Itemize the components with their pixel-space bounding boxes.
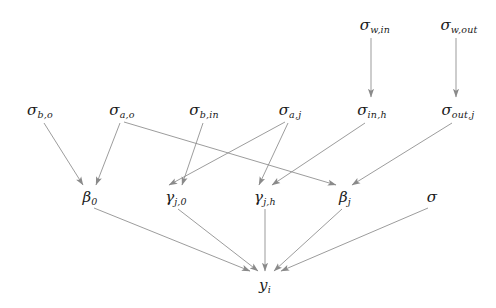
edge-gamma_j_0-to-y_i <box>178 209 258 271</box>
node-subscript: w,in <box>370 24 390 35</box>
edge-sigma_b_in-to-gamma_j_0 <box>182 123 203 185</box>
edge-sigma_a_o-to-beta_j <box>124 122 336 185</box>
node-symbol: σ <box>440 16 450 34</box>
node-symbol: σ <box>357 101 367 119</box>
node-beta_j: βj <box>339 190 351 205</box>
edge-sigma_b_o-to-beta_0 <box>44 123 83 185</box>
node-subscript: a,j <box>289 109 301 120</box>
node-subscript: i <box>268 284 271 295</box>
node-subscript: b,o <box>37 109 52 120</box>
node-symbol: σ <box>427 188 437 206</box>
node-subscript: out,j <box>452 109 475 120</box>
node-sigma_in_h: σin,h <box>357 103 386 118</box>
node-y_i: yi <box>259 278 271 293</box>
node-gamma_j_h: γj,h <box>254 190 276 205</box>
node-sigma_a_o: σa,o <box>109 103 134 118</box>
node-sigma_out_j: σout,j <box>442 103 475 118</box>
node-subscript: j <box>348 196 351 207</box>
edge-beta_0-to-y_i <box>94 208 250 271</box>
edge-sigma_a_j-to-gamma_j_h <box>259 123 288 185</box>
node-subscript: w,out <box>451 24 478 35</box>
edge-sigma_in_h-to-gamma_j_h <box>272 123 365 185</box>
edge-sigma_a_j-to-gamma_j_0 <box>169 122 285 185</box>
node-gamma_j_0: γj,0 <box>165 190 187 205</box>
edges-group <box>44 38 456 271</box>
node-sigma: σ <box>427 190 437 205</box>
edge-layer <box>0 0 496 308</box>
node-subscript: in,h <box>368 109 387 120</box>
node-symbol: σ <box>442 101 452 119</box>
node-subscript: j,h <box>263 196 276 207</box>
node-symbol: σ <box>360 16 370 34</box>
node-subscript: a,o <box>120 109 135 120</box>
node-symbol: β <box>82 188 91 206</box>
node-sigma_a_j: σa,j <box>279 103 302 118</box>
edge-sigma_a_o-to-beta_0 <box>96 123 120 185</box>
node-symbol: β <box>339 188 348 206</box>
node-symbol: γ <box>165 188 174 206</box>
node-beta_0: β0 <box>82 190 97 205</box>
node-subscript: b,in <box>200 109 219 120</box>
node-sigma_w_out: σw,out <box>440 18 477 33</box>
node-symbol: y <box>259 276 268 294</box>
edge-beta_j-to-y_i <box>274 209 342 271</box>
node-symbol: σ <box>279 101 289 119</box>
node-symbol: σ <box>27 101 37 119</box>
edge-sigma-to-y_i <box>281 208 428 271</box>
node-symbol: σ <box>109 101 119 119</box>
node-sigma_w_in: σw,in <box>360 18 390 33</box>
node-sigma_b_o: σb,o <box>27 103 53 118</box>
node-subscript: 0 <box>91 196 97 207</box>
node-symbol: γ <box>254 188 263 206</box>
diagram-canvas: σw,inσw,outσb,oσa,oσb,inσa,jσin,hσout,jβ… <box>0 0 496 308</box>
node-sigma_b_in: σb,in <box>189 103 218 118</box>
edge-sigma_out_j-to-beta_j <box>352 123 452 185</box>
node-subscript: j,0 <box>174 196 187 207</box>
node-symbol: σ <box>189 101 199 119</box>
